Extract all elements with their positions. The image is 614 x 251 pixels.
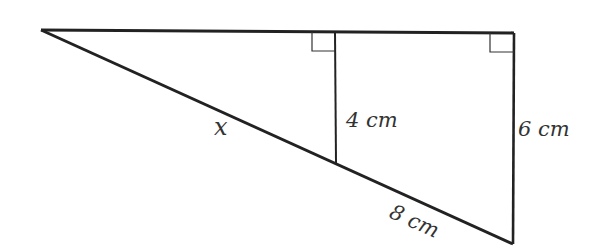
label-large-height: 6 cm (518, 117, 570, 141)
hypotenuse (41, 30, 513, 244)
label-small-height: 4 cm (345, 108, 398, 132)
right-angle-marker-right (490, 33, 514, 52)
right-angle-marker-mid (312, 32, 335, 51)
small-height-side (335, 32, 336, 163)
similar-triangles-diagram: x 4 cm 6 cm 8 cm (0, 0, 614, 251)
label-x: x (214, 113, 228, 141)
large-height-side (513, 33, 514, 244)
top-edge (41, 30, 514, 33)
label-hyp-segment: 8 cm (386, 200, 443, 243)
